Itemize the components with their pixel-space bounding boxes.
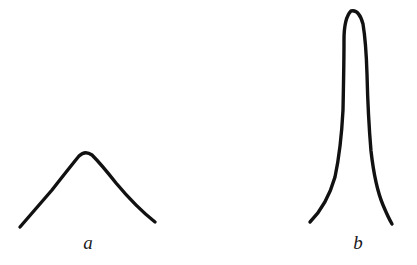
figure-container: a b [0, 0, 417, 265]
peak-curves-plot [0, 0, 417, 265]
curve-b-label: b [338, 233, 378, 252]
plot-background [0, 0, 417, 265]
curve-a-label: a [68, 233, 108, 252]
